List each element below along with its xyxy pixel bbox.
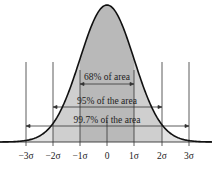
label-997: 99.7% of the area (74, 115, 142, 125)
tick-0: 0 (105, 151, 110, 161)
tick-p3: 3σ (184, 151, 194, 161)
x-tick-labels: −3σ −2σ −1σ 0 1σ 2σ 3σ (18, 151, 194, 161)
label-68: 68% of area (84, 72, 131, 82)
tick-p2: 2σ (157, 151, 167, 161)
tick-m1: −1σ (72, 151, 87, 161)
label-95: 95% of the area (77, 96, 138, 106)
normal-distribution-chart: 68% of area 95% of the area 99.7% of the… (0, 0, 212, 171)
tick-p1: 1σ (129, 151, 139, 161)
tick-m3: −3σ (18, 151, 33, 161)
tick-m2: −2σ (45, 151, 60, 161)
